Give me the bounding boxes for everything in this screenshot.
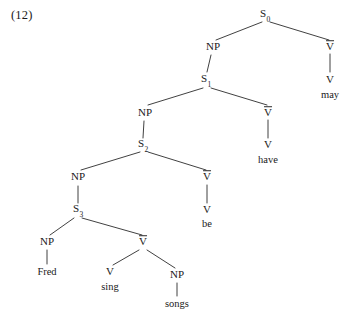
terminal-sing: sing [101, 281, 119, 292]
branch-np1-s2 [143, 121, 144, 138]
node-v-may: V [326, 74, 334, 86]
branch-s2-vbar2 [148, 152, 206, 170]
node-vbar2: V [203, 171, 211, 183]
branch-vbar3-np4 [147, 250, 175, 268]
syntax-tree-figure: (12) S0 NP V S1 V may NP V S2 V have NP … [0, 0, 349, 314]
node-v-have-category: V [264, 139, 272, 151]
node-v-may-category: V [326, 74, 334, 86]
branch-s1-np1 [148, 88, 203, 105]
node-np2-category: NP [71, 171, 85, 183]
node-np0-category: NP [206, 41, 220, 53]
node-v-have: V [264, 139, 272, 151]
node-np3-category: NP [40, 236, 54, 248]
branch-np0-s1 [207, 55, 211, 72]
node-vbar3: V [139, 236, 147, 248]
node-v-be: V [203, 204, 211, 216]
node-np1: NP [138, 107, 152, 119]
node-s1: S1 [201, 73, 211, 87]
node-v-sing-category: V [106, 266, 114, 278]
node-vbar1-category: V [264, 107, 272, 119]
branch-s3-vbar3 [82, 218, 142, 235]
node-s2: S2 [138, 138, 148, 152]
node-np2: NP [71, 171, 85, 183]
branch-s0-vbar0 [270, 22, 329, 40]
node-vbar0-category: V [326, 41, 334, 53]
terminal-have: have [258, 154, 278, 165]
node-s2-subscript: 2 [144, 145, 148, 154]
terminal-songs: songs [165, 298, 189, 309]
node-s0: S0 [260, 8, 270, 22]
terminal-be: be [202, 218, 212, 229]
branch-s2-np2 [81, 152, 140, 170]
node-vbar2-category: V [203, 171, 211, 183]
node-np4: NP [170, 269, 184, 281]
node-s3-subscript: 3 [79, 210, 83, 219]
node-v-be-category: V [203, 204, 211, 216]
node-s1-subscript: 1 [207, 80, 211, 89]
terminal-fred: Fred [37, 266, 56, 277]
node-np1-category: NP [138, 107, 152, 119]
node-v-sing: V [106, 266, 114, 278]
node-s3: S3 [73, 203, 83, 217]
node-np0: NP [206, 41, 220, 53]
node-np4-category: NP [170, 269, 184, 281]
node-np3: NP [40, 236, 54, 248]
node-s0-subscript: 0 [266, 15, 270, 24]
branch-s3-np3 [50, 218, 74, 235]
node-vbar3-category: V [139, 236, 147, 248]
branch-s0-np0 [216, 22, 262, 40]
branch-vbar3-vsing [113, 250, 139, 265]
node-vbar0: V [326, 41, 334, 53]
branch-s1-vbar1 [211, 88, 267, 105]
terminal-may: may [321, 89, 339, 100]
node-vbar1: V [264, 107, 272, 119]
